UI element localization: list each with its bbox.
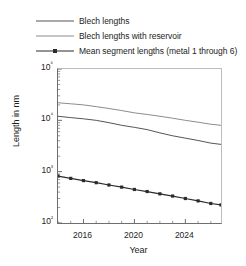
series-marker [107,183,110,186]
series-marker [120,186,123,189]
legend-label-mean-segment-lengths: Mean segment lengths (metal 1 through 6) [74,46,237,56]
series-marker [209,202,212,205]
legend-item-blech-lengths-with-reservoir: Blech lengths with reservoir [36,28,246,43]
y-tick-label: 10⁴ [41,114,53,123]
series-marker [146,190,149,193]
x-tick-label: 2024 [175,230,194,240]
legend-item-mean-segment-lengths: Mean segment lengths (metal 1 through 6) [36,43,246,58]
series-marker [184,197,187,200]
y-axis-title: Length in nm [11,61,21,181]
series-marker [158,192,161,195]
series-marker [82,179,85,182]
legend-item-blech-lengths: Blech lengths [36,13,246,28]
series-marker [133,188,136,191]
y-tick-label: 10³ [42,166,53,175]
series-marker [171,194,174,197]
y-tick-label: 10² [42,217,53,226]
y-axis-tick-labels: 10²10³10⁴10⁵ [0,0,53,266]
y-tick-label: 10⁵ [41,63,53,72]
plot-area [57,68,222,224]
series-line [58,103,221,126]
series-marker [69,177,72,180]
x-tick-label: 2016 [73,230,92,240]
x-tick-label: 2020 [124,230,143,240]
series-marker [58,174,60,177]
series-line [58,116,221,144]
legend-label-blech-lengths-with-reservoir: Blech lengths with reservoir [74,31,182,41]
series-marker [95,181,98,184]
x-axis-tick-labels: 201620202024 [0,230,246,244]
series-marker [219,203,221,206]
legend-marker-square-icon [53,49,57,53]
series-marker [196,199,199,202]
plot-lines [58,69,221,223]
x-axis-title: Year [57,245,220,255]
legend-label-blech-lengths: Blech lengths [74,16,129,26]
chart-figure: Blech lengths Blech lengths with reservo… [0,0,246,266]
chart-legend: Blech lengths Blech lengths with reservo… [36,13,246,58]
